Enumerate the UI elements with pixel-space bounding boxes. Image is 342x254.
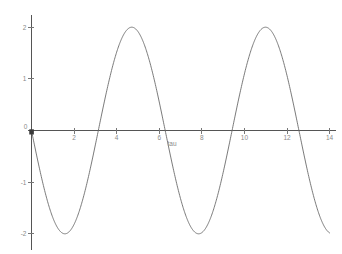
y-tick-label: -1 [21, 179, 27, 186]
y-tick-label: -2 [21, 230, 27, 237]
origin-tick-label: 0 [24, 123, 28, 130]
origin-marker [29, 129, 34, 134]
axes-group [28, 15, 336, 250]
plot-canvas: 2468101214 -2-112 0 tau [0, 0, 342, 254]
x-tick-label: 2 [72, 134, 76, 141]
x-tick-label: 12 [283, 134, 291, 141]
plot-figure: 2468101214 -2-112 0 tau [0, 0, 342, 254]
y-tick-label: 1 [23, 75, 27, 82]
x-tick-label: 4 [115, 134, 119, 141]
x-tick-label: 10 [241, 134, 249, 141]
y-axis-tick-labels: -2-112 [21, 24, 27, 238]
x-tick-label: 8 [200, 134, 204, 141]
y-tick-label: 2 [23, 24, 27, 31]
x-axis-tick-labels: 2468101214 [72, 134, 333, 141]
x-tick-label: 14 [326, 134, 334, 141]
x-axis-title: tau [167, 140, 176, 147]
x-tick-label: 6 [157, 134, 161, 141]
